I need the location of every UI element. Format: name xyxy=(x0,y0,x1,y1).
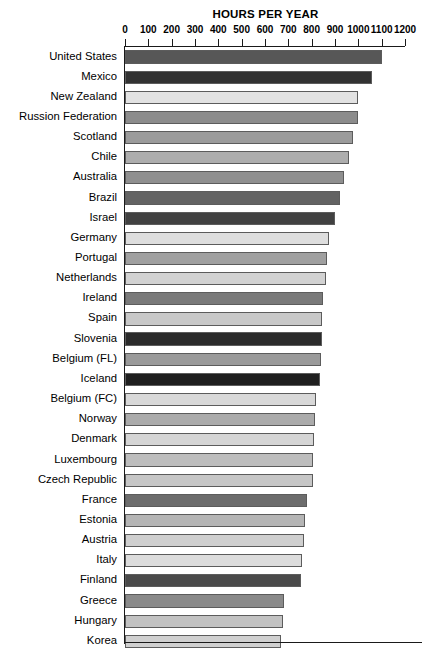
bar-row: Netherlands xyxy=(0,269,432,289)
bar-category-label: Australia xyxy=(0,170,117,183)
bar xyxy=(125,212,335,225)
bar-category-label: Korea xyxy=(0,634,117,647)
bar-row: Iceland xyxy=(0,369,432,389)
bar-category-label: United States xyxy=(0,50,117,63)
bar-category-label: Finland xyxy=(0,573,117,586)
x-tick-label: 1000 xyxy=(347,24,369,35)
bar xyxy=(125,373,320,386)
bar xyxy=(125,332,322,345)
bar-row: Slovenia xyxy=(0,329,432,349)
plot-area: United StatesMexicoNew ZealandRussion Fe… xyxy=(0,46,432,646)
bar-row: France xyxy=(0,490,432,510)
bar-category-label: Greece xyxy=(0,594,117,607)
bar xyxy=(125,494,307,507)
bar-category-label: France xyxy=(0,493,117,506)
bar-category-label: Portugal xyxy=(0,251,117,264)
bar-category-label: Denmark xyxy=(0,432,117,445)
bar-category-label: Austria xyxy=(0,533,117,546)
bar-row: Luxembourg xyxy=(0,450,432,470)
x-tick-label: 1100 xyxy=(371,24,393,35)
bar-row: Finland xyxy=(0,571,432,591)
bar-category-label: Luxembourg xyxy=(0,453,117,466)
bar xyxy=(125,393,316,406)
bar-row: Hungary xyxy=(0,611,432,631)
bar-category-label: New Zealand xyxy=(0,90,117,103)
bar xyxy=(125,111,358,124)
x-tick-label: 1200 xyxy=(394,24,416,35)
bar-row: Germany xyxy=(0,228,432,248)
x-tick-mark xyxy=(405,39,406,46)
bar xyxy=(125,514,305,527)
bar-category-label: Germany xyxy=(0,231,117,244)
bar-category-label: Israel xyxy=(0,211,117,224)
bar-row: Denmark xyxy=(0,430,432,450)
bar xyxy=(125,433,314,446)
bar xyxy=(125,71,372,84)
bar xyxy=(125,534,304,547)
bar-row: Czech Republic xyxy=(0,470,432,490)
bar xyxy=(125,50,382,63)
x-tick-label: 800 xyxy=(303,24,320,35)
bar-row: Israel xyxy=(0,208,432,228)
bar-row: Norway xyxy=(0,410,432,430)
chart-title: HOURS PER YEAR xyxy=(125,8,406,20)
bar-category-label: Brazil xyxy=(0,191,117,204)
bar-row: Russion Federation xyxy=(0,107,432,127)
bar xyxy=(125,594,284,607)
bar xyxy=(125,252,327,265)
bar-category-label: Scotland xyxy=(0,130,117,143)
bar-category-label: Czech Republic xyxy=(0,473,117,486)
bar-row: Portugal xyxy=(0,249,432,269)
bar xyxy=(125,413,315,426)
bar xyxy=(125,474,313,487)
bar-category-label: Ireland xyxy=(0,291,117,304)
bar-category-label: Russion Federation xyxy=(0,110,117,123)
bar-category-label: Mexico xyxy=(0,70,117,83)
bar xyxy=(125,312,322,325)
x-tick-label: 300 xyxy=(187,24,204,35)
bar xyxy=(125,615,283,628)
bar-category-label: Slovenia xyxy=(0,332,117,345)
x-tick-label: 400 xyxy=(210,24,227,35)
x-tick-label: 0 xyxy=(122,24,128,35)
plot-bottom-rule xyxy=(124,642,422,643)
bar-row: Greece xyxy=(0,591,432,611)
bar xyxy=(125,91,358,104)
bar xyxy=(125,574,301,587)
bar-row: Italy xyxy=(0,551,432,571)
bar-row: Belgium (FL) xyxy=(0,349,432,369)
bar-category-label: Hungary xyxy=(0,614,117,627)
bar xyxy=(125,453,313,466)
x-tick-label: 600 xyxy=(257,24,274,35)
bar-row: Ireland xyxy=(0,289,432,309)
bar-category-label: Italy xyxy=(0,553,117,566)
bar-category-label: Netherlands xyxy=(0,271,117,284)
bar-chart: HOURS PER YEAR 0100200300400500600700800… xyxy=(0,0,432,652)
bar-row: Estonia xyxy=(0,510,432,530)
bar xyxy=(125,232,329,245)
bar-row: United States xyxy=(0,47,432,67)
x-tick-label: 100 xyxy=(140,24,157,35)
bar-category-label: Iceland xyxy=(0,372,117,385)
bar-row: Mexico xyxy=(0,67,432,87)
bar xyxy=(125,191,340,204)
bar xyxy=(125,151,349,164)
x-tick-label: 200 xyxy=(163,24,180,35)
bar-row: Brazil xyxy=(0,188,432,208)
x-tick-label: 500 xyxy=(233,24,250,35)
x-tick-label: 700 xyxy=(280,24,297,35)
bar-row: New Zealand xyxy=(0,87,432,107)
bar xyxy=(125,353,321,366)
bar-category-label: Belgium (FL) xyxy=(0,352,117,365)
x-tick-label: 900 xyxy=(327,24,344,35)
bar-row: Australia xyxy=(0,168,432,188)
bar xyxy=(125,292,323,305)
bar-category-label: Belgium (FC) xyxy=(0,392,117,405)
bar xyxy=(125,131,353,144)
bar xyxy=(125,171,344,184)
bar-category-label: Estonia xyxy=(0,513,117,526)
bar-category-label: Norway xyxy=(0,412,117,425)
bar-row: Scotland xyxy=(0,128,432,148)
bar-row: Austria xyxy=(0,531,432,551)
bar-category-label: Spain xyxy=(0,311,117,324)
